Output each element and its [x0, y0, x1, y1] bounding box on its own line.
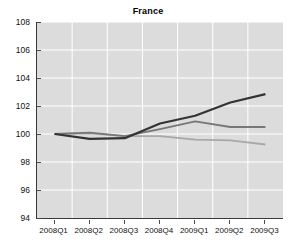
x-tick-mark — [124, 220, 125, 224]
plot-area — [36, 22, 283, 219]
y-tick-label: 96 — [0, 185, 30, 195]
x-tick-mark — [229, 220, 230, 224]
y-tick-label: 104 — [0, 73, 30, 83]
chart-title: France — [0, 6, 296, 16]
x-tick-mark — [89, 220, 90, 224]
chart-container: France 949698100102104106108 2008Q12008Q… — [0, 0, 296, 245]
x-tick-label: 2008Q1 — [39, 226, 67, 235]
x-tick-mark — [264, 220, 265, 224]
x-tick-label: 2009Q3 — [250, 226, 278, 235]
x-tick-label: 2009Q1 — [180, 226, 208, 235]
x-tick-mark — [159, 220, 160, 224]
y-tick-label: 100 — [0, 129, 30, 139]
x-tick-mark — [194, 220, 195, 224]
x-tick-label: 2008Q2 — [74, 226, 102, 235]
series-lines — [37, 22, 283, 218]
y-tick-label: 102 — [0, 101, 30, 111]
y-tick-label: 98 — [0, 157, 30, 167]
x-tick-label: 2008Q4 — [145, 226, 173, 235]
x-tick-mark — [54, 220, 55, 224]
x-tick-label: 2009Q2 — [215, 226, 243, 235]
y-tick-label: 106 — [0, 45, 30, 55]
y-tick-label: 94 — [0, 213, 30, 223]
x-tick-label: 2008Q3 — [110, 226, 138, 235]
y-tick-label: 108 — [0, 17, 30, 27]
